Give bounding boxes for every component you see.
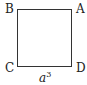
side-length-label: a3: [39, 69, 51, 84]
vertex-label-d: D: [76, 62, 86, 74]
vertex-label-a: A: [76, 3, 85, 15]
vertex-label-c: C: [5, 62, 14, 74]
vertex-label-b: B: [5, 3, 14, 15]
square-shape: [17, 9, 72, 67]
side-length-exponent: 3: [46, 70, 51, 79]
